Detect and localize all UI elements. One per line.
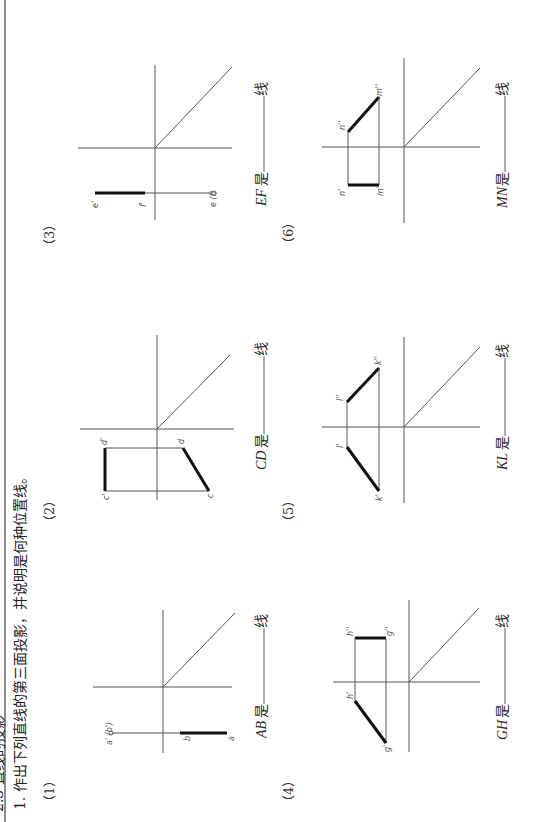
answer-line-name: CD	[254, 451, 269, 470]
answer-suffix-1: 线	[254, 614, 269, 628]
answer-4: GH 是 线	[495, 614, 510, 740]
label-h-prime: h'	[346, 692, 355, 699]
answer-line-name: MN	[495, 186, 510, 209]
answer-verb: 是	[495, 436, 510, 450]
label-d: d	[177, 438, 186, 444]
problem-number-3: （3）	[42, 218, 57, 252]
answer-line-name: GH	[495, 719, 510, 740]
answer-3: EF 是 线	[254, 82, 269, 207]
label-n-double-prime: n''	[338, 121, 347, 130]
label-d-prime: d'	[100, 438, 109, 445]
answer-verb: 是	[495, 172, 510, 186]
answer-verb: 是	[495, 704, 510, 718]
svg-text:GH: GH	[495, 719, 510, 740]
label-m-double-prime: m''	[375, 84, 384, 96]
axis-45-line	[163, 613, 235, 687]
label-a: a	[227, 736, 236, 741]
answer-line-name: EF	[254, 188, 269, 207]
svg-text:CD: CD	[254, 451, 269, 470]
axis-45-line	[409, 608, 479, 682]
answer-suffix-5: 线	[495, 344, 510, 358]
svg-text:EF: EF	[254, 188, 269, 207]
label-e-f: e (f)	[209, 190, 218, 207]
line-kl-front-view	[347, 447, 379, 491]
svg-text:KL: KL	[495, 453, 510, 471]
label-k-double-prime: k''	[374, 356, 383, 365]
answer-5: KL 是 线	[495, 344, 510, 471]
answer-suffix-3: 线	[254, 82, 269, 96]
label-c-prime: c'	[102, 493, 111, 500]
figure-4-gh: h'' g'' h' g'	[333, 600, 480, 752]
figure-3-ef: e' f' e (f)	[78, 65, 232, 220]
answer-verb: 是	[254, 172, 269, 186]
svg-text:MN: MN	[495, 186, 510, 209]
label-l-prime: l'	[336, 444, 345, 448]
axis-45-line	[404, 347, 480, 427]
figure-1-ab: a' (b') b a	[93, 610, 236, 753]
answer-verb: 是	[254, 704, 269, 718]
axis-45-line	[404, 68, 480, 147]
label-f-prime: f'	[139, 202, 148, 207]
problem-number-1: （1）	[42, 774, 57, 808]
drawing-canvas: 2.3 直线的投影 1. 作出下列直线的第三面投影，并说明是何种位置线。 （1）…	[0, 0, 547, 822]
worksheet-page: 2.3 直线的投影 1. 作出下列直线的第三面投影，并说明是何种位置线。 （1）…	[0, 0, 547, 822]
label-g-double-prime: g''	[385, 627, 394, 636]
problem-number-4: （4）	[281, 774, 296, 808]
figure-5-kl: l'' k'' l' k'	[322, 337, 480, 503]
answer-6: MN 是 线	[495, 82, 510, 209]
problem-number-2: （2）	[42, 494, 57, 528]
instruction-text: 1. 作出下列直线的第三面投影，并说明是何种位置线。	[12, 470, 28, 810]
answer-suffix-6: 线	[495, 82, 510, 96]
answer-line-name: AB	[254, 720, 269, 739]
label-e-prime: e'	[91, 201, 100, 208]
answer-line-name: KL	[495, 453, 510, 471]
label-a-prime-b-prime: a' (b')	[105, 722, 114, 745]
line-mn-side-view	[348, 97, 379, 132]
label-m-prime: m'	[376, 186, 385, 196]
axis-45-line	[155, 67, 232, 148]
label-g-prime: g'	[383, 745, 392, 752]
label-c: c	[206, 493, 215, 498]
line-cd-top-view	[183, 448, 209, 491]
answer-suffix-2: 线	[254, 342, 269, 356]
line-kl-side-view	[347, 368, 379, 402]
figure-2-cd: d' c' d c	[80, 335, 234, 500]
section-header: 2.3 直线的投影	[0, 715, 6, 812]
problem-number-6: （6）	[281, 216, 296, 250]
label-h-double-prime: h''	[346, 627, 355, 636]
label-n-prime: n'	[338, 189, 347, 196]
label-l-double-prime: l''	[336, 394, 345, 401]
line-gh-front-view	[355, 701, 386, 743]
label-k-prime: k'	[375, 494, 384, 501]
figure-6-mn: n'' m'' n' m'	[322, 58, 480, 223]
answer-2: CD 是 线	[254, 342, 269, 470]
svg-text:AB: AB	[254, 720, 269, 739]
axis-45-line	[157, 355, 230, 429]
problem-number-5: （5）	[281, 494, 296, 528]
answer-suffix-4: 线	[495, 614, 510, 628]
answer-verb: 是	[254, 434, 269, 448]
answer-1: AB 是 线	[254, 614, 269, 739]
label-b: b	[183, 736, 192, 741]
